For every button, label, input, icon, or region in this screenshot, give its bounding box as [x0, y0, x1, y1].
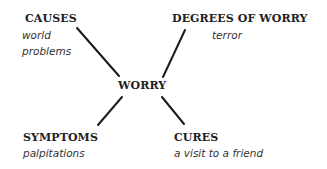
branch-note-symptoms-1: palpitations: [23, 146, 85, 161]
center-node-label: WORRY: [118, 79, 166, 92]
branch-note-causes-1: world: [22, 28, 51, 43]
branch-note-cures-1: a visit to a friend: [174, 146, 263, 161]
connector-degrees: [163, 30, 185, 77]
branch-heading-causes: CAUSES: [25, 12, 77, 25]
mind-map: WORRY CAUSES world problems DEGREES OF W…: [0, 0, 327, 169]
branch-heading-cures: CURES: [174, 131, 218, 144]
connector-symptoms: [98, 97, 122, 125]
branch-heading-degrees: DEGREES OF WORRY: [172, 12, 308, 25]
branch-heading-symptoms: SYMPTOMS: [23, 131, 98, 144]
branch-note-degrees-1: terror: [212, 28, 242, 43]
connector-causes: [77, 28, 119, 76]
connector-cures: [162, 97, 184, 124]
branch-note-causes-2: problems: [22, 44, 71, 59]
